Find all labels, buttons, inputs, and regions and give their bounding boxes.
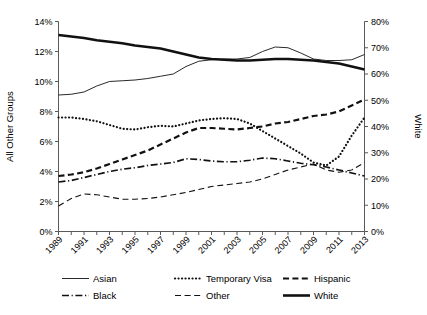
x-tick-label: 1995	[120, 234, 141, 255]
right-tick-label: 60%	[371, 69, 389, 79]
legend-item-temporary-visa: Temporary Visa	[175, 273, 273, 284]
legend-item-other: Other	[175, 290, 230, 301]
x-tick-label: 1991	[69, 234, 90, 255]
series-line-temporary-visa	[59, 118, 365, 166]
left-axis-title: All Other Groups	[4, 91, 15, 162]
legend: AsianTemporary VisaHispanicBlackOtherWhi…	[62, 273, 351, 301]
legend-label: Other	[206, 290, 230, 301]
left-tick-label: 0%	[39, 227, 52, 237]
right-axis-ticks: 0%10%20%30%40%50%60%70%80%	[365, 17, 390, 237]
right-tick-label: 0%	[371, 227, 384, 237]
axes	[59, 22, 365, 232]
x-axis-ticks: 1989199119931995199719992001200320052007…	[43, 232, 370, 256]
left-tick-label: 6%	[39, 137, 52, 147]
legend-item-white: White	[283, 290, 338, 301]
left-axis-ticks: 0%2%4%6%8%10%12%14%	[34, 17, 58, 237]
x-tick-label: 2013	[349, 234, 370, 255]
right-tick-label: 10%	[371, 201, 389, 211]
left-tick-label: 12%	[34, 47, 52, 57]
left-tick-label: 2%	[39, 197, 52, 207]
right-tick-label: 20%	[371, 174, 389, 184]
series-line-white	[59, 35, 365, 70]
series-line-hispanic	[59, 100, 365, 177]
right-tick-label: 30%	[371, 148, 389, 158]
legend-label: Temporary Visa	[206, 273, 273, 284]
legend-label: Asian	[93, 273, 117, 284]
x-tick-label: 2001	[196, 234, 217, 255]
left-tick-label: 14%	[34, 17, 52, 27]
x-tick-label: 2011	[324, 234, 345, 255]
legend-label: Hispanic	[314, 273, 351, 284]
left-tick-label: 4%	[39, 167, 52, 177]
chart-canvas: 0%2%4%6%8%10%12%14%0%10%20%30%40%50%60%7…	[0, 0, 427, 315]
legend-item-hispanic: Hispanic	[283, 273, 351, 284]
right-tick-label: 50%	[371, 96, 389, 106]
right-tick-label: 40%	[371, 122, 389, 132]
series-line-other	[59, 163, 365, 207]
x-tick-label: 1993	[94, 234, 115, 255]
line-chart: 0%2%4%6%8%10%12%14%0%10%20%30%40%50%60%7…	[0, 0, 427, 315]
legend-label: Black	[93, 290, 116, 301]
left-tick-label: 10%	[34, 77, 52, 87]
x-tick-label: 1999	[171, 234, 192, 255]
legend-item-black: Black	[62, 290, 116, 301]
x-tick-label: 1997	[145, 234, 166, 255]
legend-label: White	[314, 290, 338, 301]
series-line-black	[59, 158, 365, 182]
x-tick-label: 2009	[298, 234, 319, 255]
x-tick-label: 2003	[222, 234, 243, 255]
series-group	[59, 35, 365, 206]
x-tick-label: 2005	[247, 234, 268, 255]
right-axis-title: White	[413, 114, 424, 138]
x-tick-label: 1989	[43, 234, 64, 255]
right-tick-label: 70%	[371, 43, 389, 53]
right-tick-label: 80%	[371, 17, 389, 27]
legend-item-asian: Asian	[62, 273, 117, 284]
left-tick-label: 8%	[39, 107, 52, 117]
x-tick-label: 2007	[273, 234, 294, 255]
series-line-asian	[59, 47, 365, 95]
